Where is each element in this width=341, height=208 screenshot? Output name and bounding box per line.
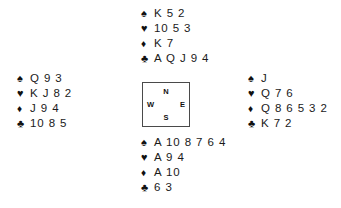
compass-label-north: N	[163, 88, 168, 96]
heart-icon: ♥	[17, 86, 30, 101]
hand-north-diamonds: ♦ K 7	[141, 36, 209, 51]
hand-north-hearts-cards: 10 5 3	[154, 21, 191, 36]
hand-south-diamonds-cards: A 10	[154, 165, 181, 180]
compass-label-east: E	[180, 101, 185, 109]
hand-east-hearts-cards: Q 7 6	[261, 86, 294, 101]
spade-icon: ♠	[17, 71, 30, 86]
heart-icon: ♥	[248, 86, 261, 101]
hand-west-spades: ♠ Q 9 3	[17, 71, 72, 86]
hand-east-spades-cards: J	[261, 71, 268, 86]
hand-north-diamonds-cards: K 7	[154, 36, 174, 51]
hand-north-hearts: ♥ 10 5 3	[141, 21, 209, 36]
hand-south-hearts: ♥ A 9 4	[141, 150, 226, 165]
compass-label-south: S	[163, 114, 168, 122]
club-icon: ♣	[17, 116, 30, 131]
hand-west-clubs-cards: 10 8 5	[30, 116, 67, 131]
diamond-icon: ♦	[17, 101, 30, 116]
club-icon: ♣	[141, 180, 154, 195]
hand-north-clubs-cards: A Q J 9 4	[154, 51, 209, 66]
hand-west-clubs: ♣ 10 8 5	[17, 116, 72, 131]
diamond-icon: ♦	[141, 36, 154, 51]
hand-south-clubs-cards: 6 3	[154, 180, 173, 195]
spade-icon: ♠	[141, 135, 154, 150]
hand-south-spades: ♠ A 10 8 7 6 4	[141, 135, 226, 150]
compass-label-west: W	[147, 101, 154, 109]
hand-east-clubs: ♣ K 7 2	[248, 116, 328, 131]
hand-north-spades-cards: K 5 2	[154, 6, 185, 21]
hand-north: ♠ K 5 2 ♥ 10 5 3 ♦ K 7 ♣ A Q J 9 4	[141, 6, 209, 66]
hand-west: ♠ Q 9 3 ♥ K J 8 2 ♦ J 9 4 ♣ 10 8 5	[17, 71, 72, 131]
hand-south-clubs: ♣ 6 3	[141, 180, 226, 195]
hand-west-spades-cards: Q 9 3	[30, 71, 63, 86]
hand-east-diamonds-cards: Q 8 6 5 3 2	[261, 101, 328, 116]
spade-icon: ♠	[248, 71, 261, 86]
club-icon: ♣	[248, 116, 261, 131]
hand-east-diamonds: ♦ Q 8 6 5 3 2	[248, 101, 328, 116]
bridge-deal-diagram: ♠ K 5 2 ♥ 10 5 3 ♦ K 7 ♣ A Q J 9 4 ♠ Q 9…	[0, 0, 341, 208]
heart-icon: ♥	[141, 21, 154, 36]
spade-icon: ♠	[141, 6, 154, 21]
hand-east-spades: ♠ J	[248, 71, 328, 86]
hand-south: ♠ A 10 8 7 6 4 ♥ A 9 4 ♦ A 10 ♣ 6 3	[141, 135, 226, 195]
hand-west-diamonds-cards: J 9 4	[30, 101, 59, 116]
hand-east-clubs-cards: K 7 2	[261, 116, 292, 131]
hand-east-hearts: ♥ Q 7 6	[248, 86, 328, 101]
hand-west-diamonds: ♦ J 9 4	[17, 101, 72, 116]
hand-north-clubs: ♣ A Q J 9 4	[141, 51, 209, 66]
hand-west-hearts-cards: K J 8 2	[30, 86, 72, 101]
heart-icon: ♥	[141, 150, 154, 165]
compass-box: N W E S	[142, 82, 190, 127]
hand-east: ♠ J ♥ Q 7 6 ♦ Q 8 6 5 3 2 ♣ K 7 2	[248, 71, 328, 131]
diamond-icon: ♦	[248, 101, 261, 116]
hand-south-diamonds: ♦ A 10	[141, 165, 226, 180]
hand-south-spades-cards: A 10 8 7 6 4	[154, 135, 226, 150]
hand-south-hearts-cards: A 9 4	[154, 150, 185, 165]
club-icon: ♣	[141, 51, 154, 66]
hand-north-spades: ♠ K 5 2	[141, 6, 209, 21]
diamond-icon: ♦	[141, 165, 154, 180]
hand-west-hearts: ♥ K J 8 2	[17, 86, 72, 101]
